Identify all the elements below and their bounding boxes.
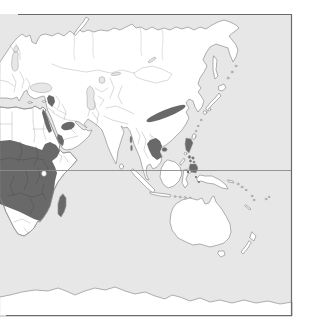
- lake-victoria: [42, 171, 47, 177]
- range-visayas: [193, 161, 195, 163]
- range-hainan: [162, 147, 167, 151]
- vanuatu-islet: [251, 195, 253, 197]
- ryukyu-islet: [195, 130, 196, 131]
- ryukyu-islet: [200, 119, 202, 121]
- solomon-islet: [237, 183, 239, 185]
- sunda-islet: [184, 197, 186, 199]
- solomon-islet: [241, 186, 243, 188]
- kyushu-island: [203, 111, 207, 115]
- range-wallacea-speck: [195, 176, 197, 178]
- range-andaman: [131, 145, 133, 151]
- crete-island: [28, 102, 32, 104]
- fiji-islet: [265, 198, 267, 200]
- range-visayas: [188, 156, 191, 159]
- range-visayas: [189, 160, 191, 162]
- fiji-islet: [268, 196, 269, 197]
- solomon-islet: [245, 189, 247, 191]
- range-visayas: [192, 157, 195, 160]
- kuril-islet: [231, 71, 233, 73]
- kuril-islet: [235, 65, 237, 67]
- aral-sea: [99, 77, 105, 84]
- sri-lanka-island: [120, 164, 124, 169]
- cyprus-island: [42, 101, 46, 103]
- kuril-islet: [227, 77, 229, 79]
- range-andaman: [130, 136, 132, 143]
- sunda-islet: [174, 196, 176, 198]
- range-wallacea-speck: [187, 171, 189, 173]
- sunda-islet: [179, 196, 181, 198]
- ryukyu-islet: [197, 125, 199, 127]
- range-wallacea-speck: [198, 181, 200, 183]
- mindoro-island: [184, 152, 187, 155]
- lakes: [42, 171, 47, 177]
- vanuatu-islet: [253, 199, 255, 201]
- range-map: [0, 0, 310, 335]
- range-map-page: [0, 0, 310, 335]
- shikoku-island: [208, 108, 211, 111]
